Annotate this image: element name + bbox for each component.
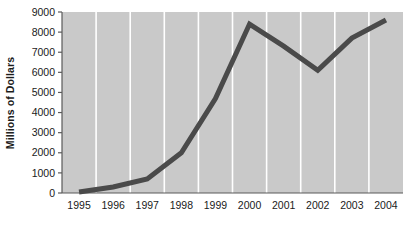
- line-chart: 0100020003000400050006000700080009000 19…: [0, 0, 414, 229]
- y-tick-label: 0: [49, 187, 55, 199]
- x-tick-label: 2002: [306, 199, 330, 211]
- y-tick-label: 8000: [32, 26, 56, 38]
- y-tick-label: 5000: [32, 86, 56, 98]
- y-tick-label: 7000: [32, 46, 56, 58]
- x-tick-label: 2004: [374, 199, 398, 211]
- y-axis-title: Millions of Dollars: [4, 57, 16, 149]
- y-tick-label: 9000: [32, 6, 56, 18]
- x-tick-label: 1995: [67, 199, 91, 211]
- y-tick-labels-group: 0100020003000400050006000700080009000: [32, 6, 56, 199]
- y-tick-label: 1000: [32, 167, 56, 179]
- x-tick-label: 1996: [101, 199, 125, 211]
- x-tick-labels-group: 1995199619971998199920002001200220032004: [67, 199, 397, 211]
- y-tick-label: 3000: [32, 126, 56, 138]
- x-tick-label: 2000: [238, 199, 262, 211]
- x-tick-label: 1997: [136, 199, 160, 211]
- y-tick-label: 2000: [32, 146, 56, 158]
- x-tick-label: 2003: [340, 199, 364, 211]
- x-tick-label: 2001: [272, 199, 296, 211]
- chart-container: 0100020003000400050006000700080009000 19…: [0, 0, 414, 229]
- x-tick-label: 1998: [170, 199, 194, 211]
- x-tick-label: 1999: [204, 199, 228, 211]
- y-tick-label: 4000: [32, 106, 56, 118]
- y-tick-label: 6000: [32, 66, 56, 78]
